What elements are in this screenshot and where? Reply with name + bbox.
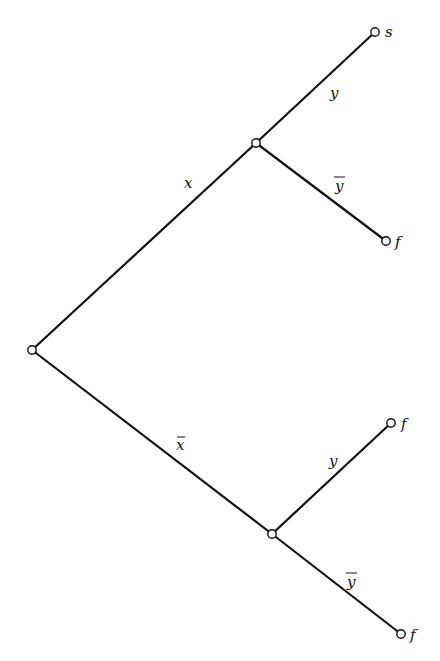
edge-root-to-x <box>32 143 256 350</box>
edge-xbar-to-f-middle <box>272 423 391 534</box>
edge-label-lower-y: y <box>328 452 338 470</box>
internal-node-x <box>252 139 260 147</box>
edge-xbar-to-f-bottom <box>272 534 401 634</box>
leaf-labels: s f f f <box>385 23 418 644</box>
leaf-node-f-upper <box>382 237 390 245</box>
edge-label-x: x <box>184 174 193 192</box>
nodes <box>28 28 405 638</box>
edge-label-upper-y: y <box>329 84 339 102</box>
edge-label-xbar: x <box>176 436 185 454</box>
edge-root-to-xbar <box>32 350 272 534</box>
root-node <box>28 346 36 354</box>
leaf-label-f-upper: f <box>394 233 403 251</box>
edge-label-upper-ybar: y <box>334 177 344 195</box>
edge-labels: x x y y y y <box>176 84 357 591</box>
edge-label-lower-ybar: y <box>346 573 356 591</box>
leaf-node-f-bottom <box>397 630 405 638</box>
leaf-label-f-middle: f <box>400 415 409 433</box>
edge-x-to-s <box>256 32 375 143</box>
internal-node-xbar <box>268 530 276 538</box>
edges <box>32 32 401 634</box>
leaf-node-f-middle <box>387 419 395 427</box>
leaf-label-f-bottom: f <box>409 626 418 644</box>
leaf-node-s <box>371 28 379 36</box>
leaf-label-s: s <box>385 23 393 41</box>
edge-x-to-f-upper <box>256 143 386 241</box>
decision-tree-diagram: s f f f x x y y y y <box>0 0 440 661</box>
